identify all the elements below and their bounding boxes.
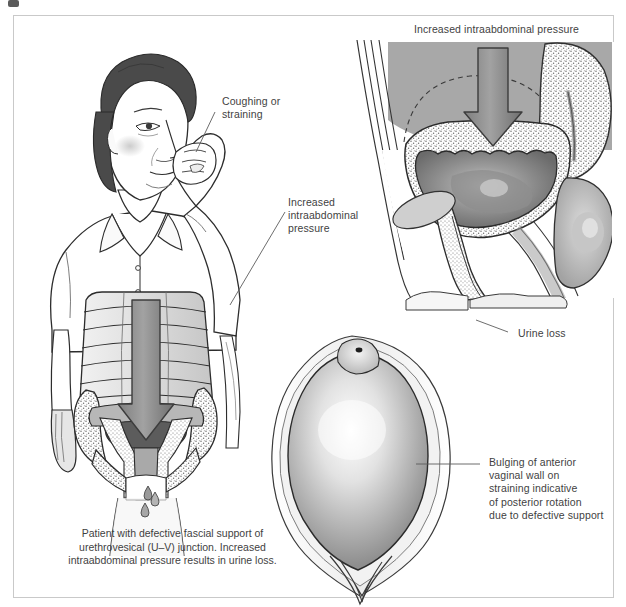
label-coughing-or-straining: Coughing or straining: [222, 95, 318, 121]
leader-urine-loss: [476, 320, 508, 332]
torso-cutaway: [74, 292, 217, 556]
patient-figure-panel: [51, 54, 240, 556]
sagittal-pelvis-panel: [357, 40, 616, 310]
figure-caption: Patient with defective fascial support o…: [45, 527, 300, 568]
leader-pressure-left: [230, 212, 285, 305]
label-urine-loss: Urine loss: [518, 327, 608, 340]
label-increased-intraabdominal-pressure-left: Increased intraabdominal pressure: [288, 196, 384, 236]
label-bulging-anterior-vaginal-wall: Bulging of anterior vaginal wall on stra…: [489, 456, 613, 522]
label-increased-intraabdominal-pressure-top: Increased intraabdominal pressure: [414, 23, 614, 36]
